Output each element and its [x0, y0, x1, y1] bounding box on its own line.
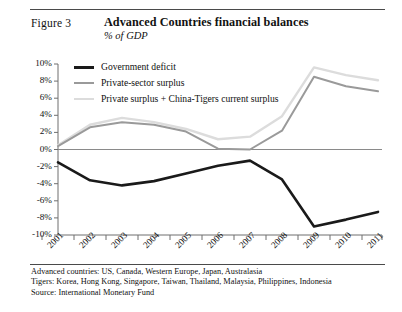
y-axis-tick-label: -4% — [22, 178, 52, 188]
footnote-line: Tigers: Korea, Hong Kong, Singapore, Tai… — [31, 277, 332, 287]
legend-line-swatch-icon — [74, 98, 94, 100]
footnotes: Advanced countries: US, Canada, Western … — [31, 267, 332, 298]
y-axis-tick-label: -10% — [22, 229, 52, 239]
chart-legend: Government deficitPrivate-sector surplus… — [74, 60, 278, 108]
series-line-government-deficit — [58, 161, 378, 227]
y-axis-tick-label: -8% — [22, 212, 52, 222]
legend-label: Government deficit — [101, 62, 176, 72]
y-axis-tick-label: 4% — [22, 109, 52, 119]
y-axis-tick-label: 2% — [22, 126, 52, 136]
bottom-divider-rule — [30, 264, 385, 265]
legend-label: Private surplus + China-Tigers current s… — [101, 94, 278, 104]
footnote-line: Advanced countries: US, Canada, Western … — [31, 267, 332, 277]
y-axis-tick-label: 6% — [22, 92, 52, 102]
y-axis-tick-label: -2% — [22, 161, 52, 171]
legend-item: Private surplus + China-Tigers current s… — [74, 92, 278, 106]
line-chart-svg — [0, 0, 402, 312]
y-axis-tick-label: -6% — [22, 195, 52, 205]
legend-line-swatch-icon — [74, 66, 94, 69]
chart-container — [0, 0, 402, 312]
footnote-line: Source: International Monetary Fund — [31, 288, 332, 298]
y-axis-tick-label: 8% — [22, 75, 52, 85]
legend-item: Government deficit — [74, 60, 278, 74]
legend-label: Private-sector surplus — [101, 78, 184, 88]
y-axis-tick-label: 10% — [22, 58, 52, 68]
y-axis-tick-label: 0% — [22, 144, 52, 154]
legend-item: Private-sector surplus — [74, 76, 278, 90]
legend-line-swatch-icon — [74, 82, 94, 84]
